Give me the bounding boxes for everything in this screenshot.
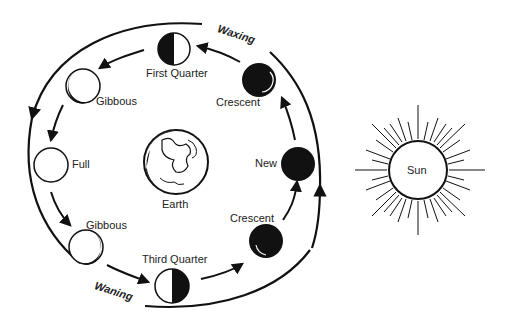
arrow-crescent-to-firstquarter (198, 46, 240, 62)
phase-label-third-quarter: Third Quarter (142, 253, 207, 265)
phase-label-full: Full (72, 158, 90, 170)
arrow-thirdquarter-to-crescent (201, 264, 242, 279)
phase-label-waxing-crescent: Crescent (216, 96, 260, 108)
earth-label: Earth (162, 198, 188, 210)
third-quarter-moon-icon (155, 269, 189, 303)
arrow-gibbous-to-thirdquarter (107, 265, 148, 282)
waxing-crescent-moon-icon (242, 63, 276, 97)
sun-label: Sun (407, 164, 427, 176)
waning-gibbous-moon-icon (69, 230, 103, 265)
right-orbit-arrow (312, 186, 320, 248)
arrow-full-to-gibbous (51, 192, 70, 225)
waning-crescent-moon-icon (249, 224, 283, 258)
new-moon-icon (281, 147, 315, 181)
phase-label-waning-crescent: Crescent (230, 212, 274, 224)
arrow-new-to-crescent (282, 98, 295, 140)
moon-phases-diagram: Waxing Waning Earth Sun New Crescent Fir… (0, 0, 505, 327)
phase-label-waning-gibbous: Gibbous (86, 219, 127, 231)
arrow-gibbous-to-full (51, 105, 63, 140)
earth-icon (144, 130, 208, 194)
phase-label-waxing-gibbous: Gibbous (96, 95, 137, 107)
phase-label-new: New (255, 157, 277, 169)
phase-label-first-quarter: First Quarter (146, 67, 208, 79)
first-quarter-moon-icon (158, 33, 190, 65)
waxing-gibbous-moon-icon (66, 69, 100, 104)
full-moon-icon (34, 148, 68, 182)
arrow-crescent-to-new (283, 182, 297, 220)
arrow-firstquarter-to-gibbous (100, 50, 144, 68)
